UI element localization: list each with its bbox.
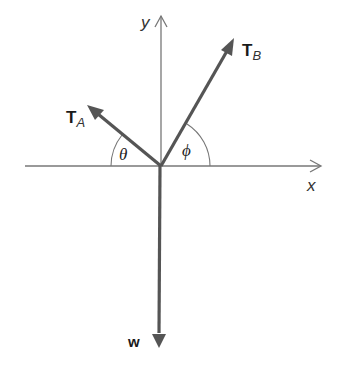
vector-ta-label: TA [66, 109, 85, 129]
phi-label: ϕ [182, 142, 191, 159]
free-body-diagram [0, 0, 344, 378]
tb-arrowhead-icon [221, 38, 234, 56]
vector-w [152, 166, 166, 348]
y-axis-label: y [141, 14, 150, 31]
y-axis [155, 16, 167, 166]
x-axis-label: x [307, 177, 316, 194]
x-axis [25, 160, 321, 172]
vector-tb-label: TB [242, 42, 261, 62]
w-arrowhead-icon [152, 334, 166, 348]
vector-w-label: w [128, 334, 140, 349]
vector-tb [161, 38, 234, 166]
theta-label: θ [119, 146, 127, 163]
